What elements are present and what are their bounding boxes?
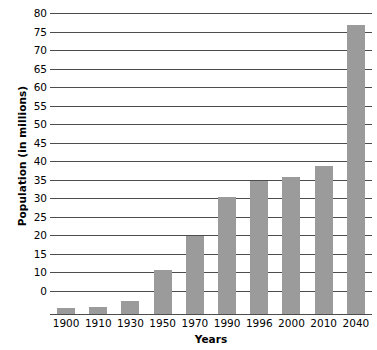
bar: [250, 181, 268, 314]
bar-slot: [82, 7, 114, 314]
y-axis-tick-label: 40: [21, 156, 47, 167]
x-axis-tick-label: 1930: [114, 317, 146, 329]
x-axis-title: Years: [50, 333, 372, 345]
x-axis-tick-label: 2010: [308, 317, 340, 329]
x-axis-tick-label: 1910: [82, 317, 114, 329]
bar-slot: [179, 7, 211, 314]
x-axis-tick-label: 2040: [340, 317, 372, 329]
y-axis-tick-label: 55: [21, 100, 47, 111]
bar-slot: [114, 7, 146, 314]
bar-slot: [275, 7, 307, 314]
x-axis-tick-label: 1900: [50, 317, 82, 329]
y-axis-tick-label: 45: [21, 137, 47, 148]
x-axis-tick-label: 2000: [275, 317, 307, 329]
bar-slot: [50, 7, 82, 314]
bar: [347, 25, 365, 314]
y-axis-tick-label: 15: [21, 248, 47, 259]
y-axis-tick-label: 25: [21, 211, 47, 222]
plot-area: [50, 7, 372, 315]
x-axis-tick-label: 1950: [147, 317, 179, 329]
y-axis-tick-label: 10: [21, 267, 47, 278]
x-axis-tick-label: 1996: [243, 317, 275, 329]
bar: [121, 301, 139, 314]
bar: [218, 197, 236, 314]
bar-slot: [308, 7, 340, 314]
y-axis-tick-label: 35: [21, 174, 47, 185]
bar-slot: [147, 7, 179, 314]
y-axis-tick-label: 50: [21, 119, 47, 130]
bar-slot: [243, 7, 275, 314]
bar-slot: [340, 7, 372, 314]
bar: [186, 236, 204, 314]
bar: [315, 166, 333, 314]
y-axis-tick-label: 70: [21, 45, 47, 56]
bar: [154, 270, 172, 314]
bar-slot: [211, 7, 243, 314]
y-axis-tick-label: 60: [21, 82, 47, 93]
y-axis-tick-label: 0: [21, 285, 47, 296]
y-axis-tick-label: 65: [21, 63, 47, 74]
x-axis-tick-labels: 1900191019301950197019901996200020102040: [50, 317, 372, 331]
x-axis-tick-label: 1970: [179, 317, 211, 329]
x-axis-tick-label: 1990: [211, 317, 243, 329]
y-axis-tick-label: 75: [21, 26, 47, 37]
bar: [89, 307, 107, 314]
bar-chart: Population (in millions) 807570656055504…: [0, 0, 377, 350]
bar-series: [50, 7, 372, 315]
y-axis-tick-label: 80: [21, 8, 47, 19]
y-axis-tick-label: 20: [21, 230, 47, 241]
y-axis-tick-label: 30: [21, 193, 47, 204]
x-axis-line: [50, 314, 372, 315]
bar: [282, 177, 300, 314]
y-axis-tick-labels: 8075706560555045403530252015100: [21, 7, 47, 315]
